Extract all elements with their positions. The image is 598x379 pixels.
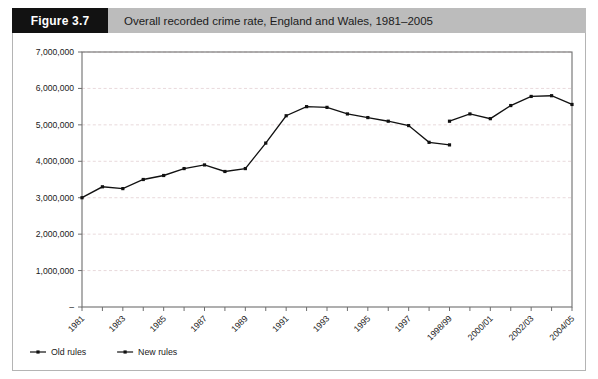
figure-body-frame — [12, 33, 586, 371]
figure-header: Figure 3.7 Overall recorded crime rate, … — [12, 8, 586, 33]
figure-number-badge: Figure 3.7 — [12, 8, 108, 33]
figure-title: Overall recorded crime rate, England and… — [108, 15, 433, 27]
figure-container: Figure 3.7 Overall recorded crime rate, … — [0, 0, 598, 379]
